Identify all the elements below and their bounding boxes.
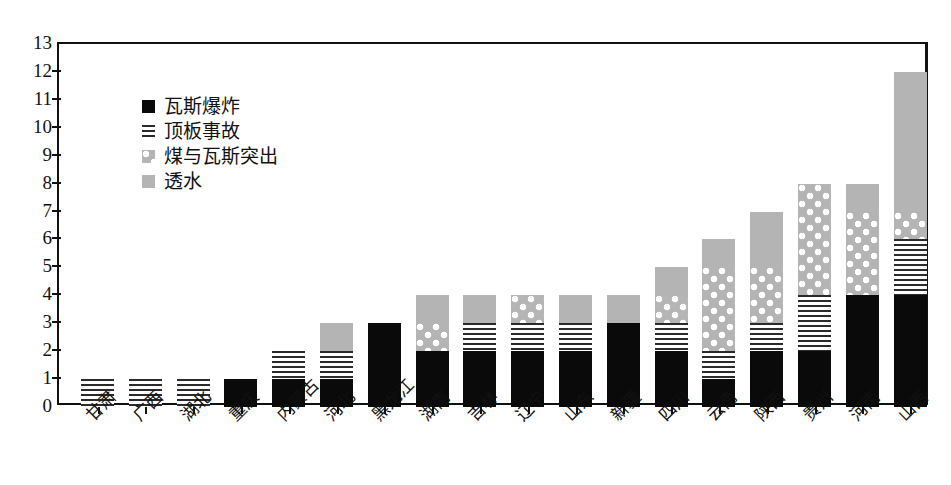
legend-label-outburst: 煤与瓦斯突出 bbox=[164, 147, 278, 166]
bar-segment-roof bbox=[320, 351, 353, 379]
y-tick-mark-6 bbox=[52, 237, 61, 239]
legend-item-blast: 瓦斯爆炸 bbox=[142, 94, 362, 119]
bar-group-12 bbox=[655, 44, 688, 407]
y-axis: 131211109876543210 bbox=[0, 42, 52, 405]
y-tick-mark-3 bbox=[52, 321, 61, 323]
bar-group-8 bbox=[463, 44, 496, 407]
bar-segment-outburst bbox=[846, 212, 879, 296]
bar-group-17 bbox=[894, 44, 927, 407]
bar-segment-water bbox=[846, 184, 879, 212]
y-tick-mark-12 bbox=[52, 70, 61, 72]
bar-segment-roof bbox=[702, 351, 735, 379]
bar-segment-roof bbox=[463, 323, 496, 351]
y-tick-label-2: 2 bbox=[6, 340, 52, 359]
bar-segment-outburst bbox=[416, 323, 449, 351]
legend-label-water: 透水 bbox=[164, 172, 202, 191]
bar-segment-water bbox=[894, 72, 927, 212]
bar-segment-outburst bbox=[798, 184, 831, 296]
y-tick-label-12: 12 bbox=[6, 61, 52, 80]
bar-segment-water bbox=[607, 295, 640, 323]
legend-swatch-water-icon bbox=[142, 175, 155, 188]
legend-swatch-roof-icon bbox=[142, 125, 155, 138]
legend-item-outburst: 煤与瓦斯突出 bbox=[142, 144, 362, 169]
y-tick-label-10: 10 bbox=[6, 117, 52, 136]
y-tick-mark-8 bbox=[52, 182, 61, 184]
legend-swatch-blast-icon bbox=[142, 100, 155, 113]
bar-segment-water bbox=[320, 323, 353, 351]
y-tick-label-3: 3 bbox=[6, 312, 52, 331]
bar-segment-water bbox=[702, 239, 735, 267]
bar-segment-outburst bbox=[655, 295, 688, 323]
legend-label-roof: 顶板事故 bbox=[164, 122, 240, 141]
bar-group-13 bbox=[702, 44, 735, 407]
legend-swatch-outburst-icon bbox=[142, 150, 155, 163]
bar-segment-outburst bbox=[702, 267, 735, 351]
bar-segment-outburst bbox=[750, 267, 783, 323]
stacked-bar-chart: 131211109876543210 瓦斯爆炸 顶板事故 煤与瓦斯突出 透水 甘… bbox=[0, 0, 951, 485]
bar-segment-roof bbox=[750, 323, 783, 351]
y-tick-mark-7 bbox=[52, 210, 61, 212]
bar-group-15 bbox=[798, 44, 831, 407]
y-tick-mark-1 bbox=[52, 377, 61, 379]
y-tick-mark-10 bbox=[52, 126, 61, 128]
bar-segment-outburst bbox=[894, 212, 927, 240]
bar-segment-water bbox=[655, 267, 688, 295]
y-tick-label-4: 4 bbox=[6, 284, 52, 303]
bar-segment-roof bbox=[559, 323, 592, 351]
y-tick-mark-5 bbox=[52, 265, 61, 267]
legend-item-water: 透水 bbox=[142, 169, 362, 194]
bar-group-10 bbox=[559, 44, 592, 407]
y-tick-label-6: 6 bbox=[6, 228, 52, 247]
bar-group-7 bbox=[416, 44, 449, 407]
bar-segment-roof bbox=[272, 351, 305, 379]
y-tick-mark-9 bbox=[52, 154, 61, 156]
y-tick-label-9: 9 bbox=[6, 145, 52, 164]
bar-group-0 bbox=[81, 44, 114, 407]
bar-group-11 bbox=[607, 44, 640, 407]
bar-segment-roof bbox=[894, 239, 927, 295]
y-tick-label-11: 11 bbox=[6, 89, 52, 108]
y-tick-label-13: 13 bbox=[6, 33, 52, 52]
y-tick-label-8: 8 bbox=[6, 173, 52, 192]
bar-group-6 bbox=[368, 44, 401, 407]
y-tick-mark-2 bbox=[52, 349, 61, 351]
bar-segment-outburst bbox=[511, 295, 544, 323]
bar-group-16 bbox=[846, 44, 879, 407]
bar-segment-roof bbox=[511, 323, 544, 351]
bar-segment-water bbox=[416, 295, 449, 323]
bar-group-9 bbox=[511, 44, 544, 407]
chart-legend: 瓦斯爆炸 顶板事故 煤与瓦斯突出 透水 bbox=[142, 94, 362, 194]
x-axis: 甘肃广西湖北重庆内蒙古河北黑龙江湖南吉林辽宁山东新疆四川云南陕西贵州河南山西 bbox=[57, 405, 928, 485]
y-tick-label-0: 0 bbox=[6, 396, 52, 415]
y-tick-mark-11 bbox=[52, 98, 61, 100]
legend-label-blast: 瓦斯爆炸 bbox=[164, 97, 240, 116]
bar-segment-roof bbox=[655, 323, 688, 351]
bar-group-14 bbox=[750, 44, 783, 407]
bar-segment-water bbox=[750, 212, 783, 268]
bar-segment-water bbox=[463, 295, 496, 323]
legend-item-roof: 顶板事故 bbox=[142, 119, 362, 144]
bar-segment-water bbox=[559, 295, 592, 323]
y-tick-mark-4 bbox=[52, 293, 61, 295]
y-tick-label-5: 5 bbox=[6, 256, 52, 275]
bar-segment-roof bbox=[798, 295, 831, 351]
plot-area: 瓦斯爆炸 顶板事故 煤与瓦斯突出 透水 bbox=[57, 42, 928, 405]
y-tick-label-7: 7 bbox=[6, 201, 52, 220]
y-tick-label-1: 1 bbox=[6, 368, 52, 387]
